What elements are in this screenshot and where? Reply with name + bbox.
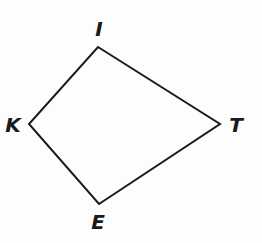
kite-outline [29, 47, 220, 204]
vertex-label-e: E [91, 212, 105, 232]
kite-figure [0, 0, 262, 243]
vertex-label-i: I [95, 19, 102, 39]
vertex-label-k: K [5, 115, 21, 135]
vertex-label-t: T [229, 115, 243, 135]
kite-diagram: I T E K [0, 0, 262, 243]
